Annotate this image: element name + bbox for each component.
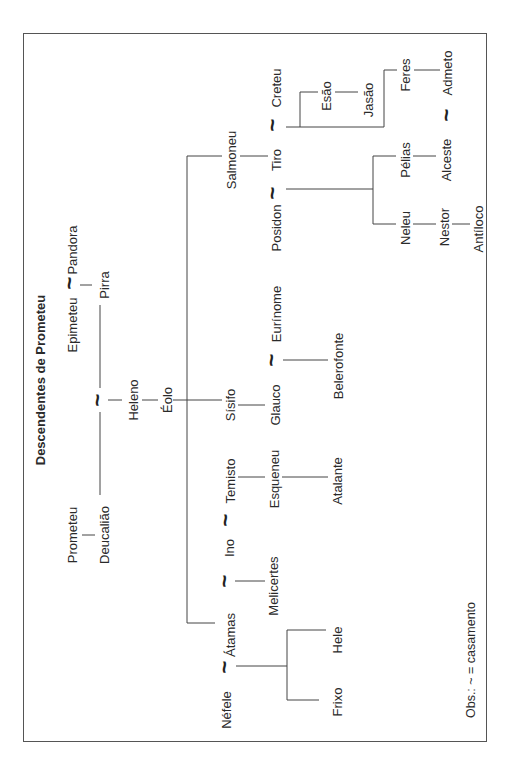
node-deucaliao: Deucalião — [98, 506, 111, 564]
node-ino: Ino — [223, 539, 236, 557]
node-nefele: Néfele — [220, 691, 233, 729]
node-hele: Hele — [331, 627, 344, 654]
node-antiloco: Antíloco — [472, 206, 485, 253]
node-pelias: Pélias — [399, 142, 412, 177]
node-melicertes: Melicertes — [267, 556, 280, 615]
marriage-tilde-icon: ~ — [261, 354, 283, 367]
node-epimeteu: Epimeteu — [66, 298, 79, 353]
node-belerofonte: Belerofonte — [332, 333, 345, 400]
node-admeto: Admeto — [441, 51, 454, 96]
node-feres: Feres — [399, 58, 412, 91]
marriage-tilde-icon: ~ — [262, 119, 284, 132]
legend-note: Obs.: ~ = casamento — [465, 602, 478, 718]
node-salmoneu: Salmoneu — [225, 131, 238, 190]
diagram-title: Descendentes de Prometeu — [34, 295, 47, 466]
node-frixo: Frixo — [331, 688, 344, 717]
node-pirra: Pirra — [98, 271, 111, 298]
node-heleno: Heleno — [127, 379, 140, 420]
marriage-tilde-icon: ~ — [215, 514, 237, 527]
node-esao: Esão — [320, 81, 333, 111]
node-neleu: Neleu — [399, 211, 412, 245]
node-nestor: Nestor — [438, 208, 451, 246]
node-temisto: Temisto — [224, 459, 237, 504]
node-posidon: Posidon — [270, 205, 283, 252]
marriage-tilde-icon: ~ — [436, 109, 458, 122]
node-jasao: Jasão — [362, 83, 375, 118]
node-tiro: Tiro — [270, 149, 283, 171]
node-pandora: Pandora — [66, 225, 79, 274]
marriage-tilde-icon: ~ — [214, 661, 236, 674]
node-sisifo: Sísifo — [224, 389, 237, 422]
node-eurinome: Eurínome — [270, 286, 283, 342]
marriage-tilde-icon: ~ — [59, 277, 81, 290]
node-esqueneu: Esqueneu — [268, 450, 281, 509]
node-creteu: Creteu — [270, 68, 283, 107]
node-prometeu: Prometeu — [66, 507, 79, 563]
marriage-tilde-icon: ~ — [262, 187, 284, 200]
node-eolo: Éolo — [161, 387, 174, 413]
node-glauco: Glauco — [269, 384, 282, 425]
node-atalante: Atalante — [331, 457, 344, 505]
node-alceste: Alceste — [440, 139, 453, 182]
marriage-tilde-icon: ~ — [214, 575, 236, 588]
marriage-tilde-icon: ~ — [87, 394, 109, 407]
node-atamas: Átamas — [224, 613, 237, 657]
